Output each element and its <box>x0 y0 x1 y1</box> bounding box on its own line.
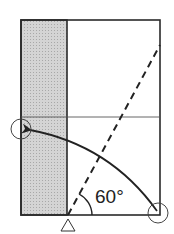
pivot-triangle <box>61 219 75 231</box>
folding-diagram: 60° <box>0 0 174 234</box>
shaded-strip <box>21 20 67 215</box>
angle-arc <box>79 194 92 215</box>
angle-label: 60° <box>95 186 124 207</box>
start-circle <box>148 203 168 223</box>
